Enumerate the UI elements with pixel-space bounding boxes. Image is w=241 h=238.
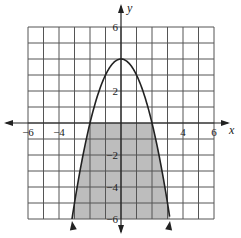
y-tick-label: −6 <box>106 213 118 225</box>
y-axis-down-arrow-icon <box>118 225 124 234</box>
y-tick-label: −2 <box>106 149 118 161</box>
y-tick-label: −4 <box>106 181 118 193</box>
x-tick-label: −6 <box>22 126 34 138</box>
y-tick-label: 6 <box>113 21 119 33</box>
y-axis-label: y <box>126 1 133 15</box>
x-tick-label: −4 <box>53 126 65 138</box>
x-axis-left-arrow-icon <box>4 120 13 126</box>
x-tick-label: 4 <box>180 126 186 138</box>
coordinate-plane: x y −6−44662−2−4−6 <box>0 0 241 238</box>
x-tick-label: 6 <box>211 126 217 138</box>
y-axis-up-arrow-icon <box>118 4 124 13</box>
y-tick-label: 2 <box>113 85 119 97</box>
curve-arrow-icon <box>165 221 172 230</box>
curve-arrow-icon <box>70 221 77 230</box>
x-axis-label: x <box>228 123 235 137</box>
